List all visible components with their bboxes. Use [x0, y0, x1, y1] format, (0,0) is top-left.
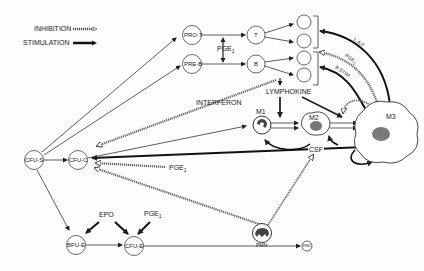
- interferon-label: INTERFERON: [196, 99, 242, 106]
- hematopoiesis-regulation-diagram: INHIBITION STIMULATION PRO-T PRE-B T B C…: [0, 0, 424, 271]
- node-cfu-e-label: CFU-E: [125, 243, 143, 249]
- pge1-cfue-label: PGE1: [144, 210, 162, 219]
- epo-label: EPO: [99, 211, 114, 218]
- node-m2-label: M2: [309, 114, 319, 121]
- node-bfu-e-label: BFU-E: [67, 242, 85, 248]
- node-pmn-label: PMN: [256, 243, 267, 248]
- node-t-label: T: [254, 32, 258, 38]
- arrow-pmn-cfuc: [95, 168, 262, 225]
- node-m1: [253, 116, 271, 134]
- arrow-interferon: [97, 80, 276, 146]
- legend-inhibition-label: INHIBITION: [34, 25, 71, 32]
- legend-inhibition-symbol: [73, 27, 97, 31]
- node-pro-t-label: PRO-T: [184, 32, 203, 38]
- arrow-cfus-preb: [44, 66, 180, 155]
- arrow-pmn-csf: [268, 155, 313, 225]
- node-m1-label: M1: [256, 108, 266, 115]
- node-cfu-s-label: CFU-S: [25, 157, 43, 163]
- pge1-cfuc-label: PGE1: [169, 164, 187, 173]
- arrow-cfus-prot: [42, 38, 176, 152]
- csf-label: CSF: [308, 146, 324, 153]
- legend-stimulation-symbol: [73, 41, 97, 46]
- node-b-label: B: [254, 61, 258, 67]
- node-rbc-label: RBC: [303, 244, 311, 248]
- pge1-tb-label: PGE1: [217, 45, 235, 54]
- arrow-pge1-cfuc: [96, 163, 165, 167]
- legend-stimulation-label: STIMULATION: [23, 39, 70, 46]
- node-cfu-c-label: CFU-C: [69, 157, 88, 163]
- node-pre-b-label: PRE-B: [184, 61, 202, 67]
- lymphokine-label: LYMPHOKINE: [266, 88, 311, 95]
- node-m3-label: M3: [386, 113, 396, 120]
- arrow-cfus-bfue: [37, 170, 69, 230]
